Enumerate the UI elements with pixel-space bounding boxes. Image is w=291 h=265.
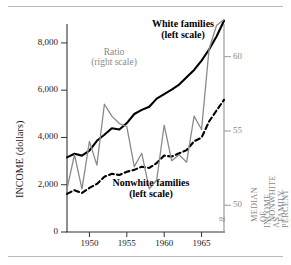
series-line-ratio	[67, 20, 224, 189]
series-annotation-nonwhite-families: Nonwhite families (left scale)	[92, 177, 210, 199]
series-annotation-ratio-subtitle: (right scale)	[71, 57, 157, 67]
left-tick-label: 0	[20, 226, 58, 236]
left-tick-label: 8,000	[20, 37, 58, 47]
axis-break-icon: ≈	[219, 213, 225, 225]
left-axis-ticks	[61, 43, 67, 232]
bottom-axis-ticks	[89, 232, 201, 237]
bottom-tick-label: 1955	[109, 238, 145, 248]
series-annotation-nonwhite-title: Nonwhite families	[113, 177, 190, 188]
right-tick-label: 50	[233, 199, 242, 209]
series-annotation-white-title: White families	[152, 18, 214, 29]
left-tick-label: 6,000	[20, 84, 58, 94]
right-axis-title-line2: INCOME AS PERCENT OF WHITE	[263, 190, 291, 228]
left-tick-label: 4,000	[20, 131, 58, 141]
right-axis-ticks	[224, 57, 231, 206]
right-tick-label: 60	[233, 51, 242, 61]
series-annotation-white-families: White families (left scale)	[131, 18, 235, 40]
series-annotation-ratio: Ratio (right scale)	[71, 47, 157, 67]
figure-container: INCOME (dollars) MEDIAN OF NONWHITE FAMI…	[0, 0, 291, 265]
series-annotation-nonwhite-subtitle: (left scale)	[92, 188, 210, 199]
series-annotation-ratio-title: Ratio	[104, 47, 125, 57]
bottom-tick-label: 1950	[71, 238, 107, 248]
series-line-white-families	[67, 21, 224, 158]
left-tick-label: 2,000	[20, 179, 58, 189]
series-lines	[67, 20, 224, 194]
bottom-tick-label: 1960	[146, 238, 182, 248]
series-annotation-white-subtitle: (left scale)	[131, 29, 235, 40]
bottom-tick-label: 1965	[184, 238, 220, 248]
right-tick-label: 55	[233, 125, 242, 135]
